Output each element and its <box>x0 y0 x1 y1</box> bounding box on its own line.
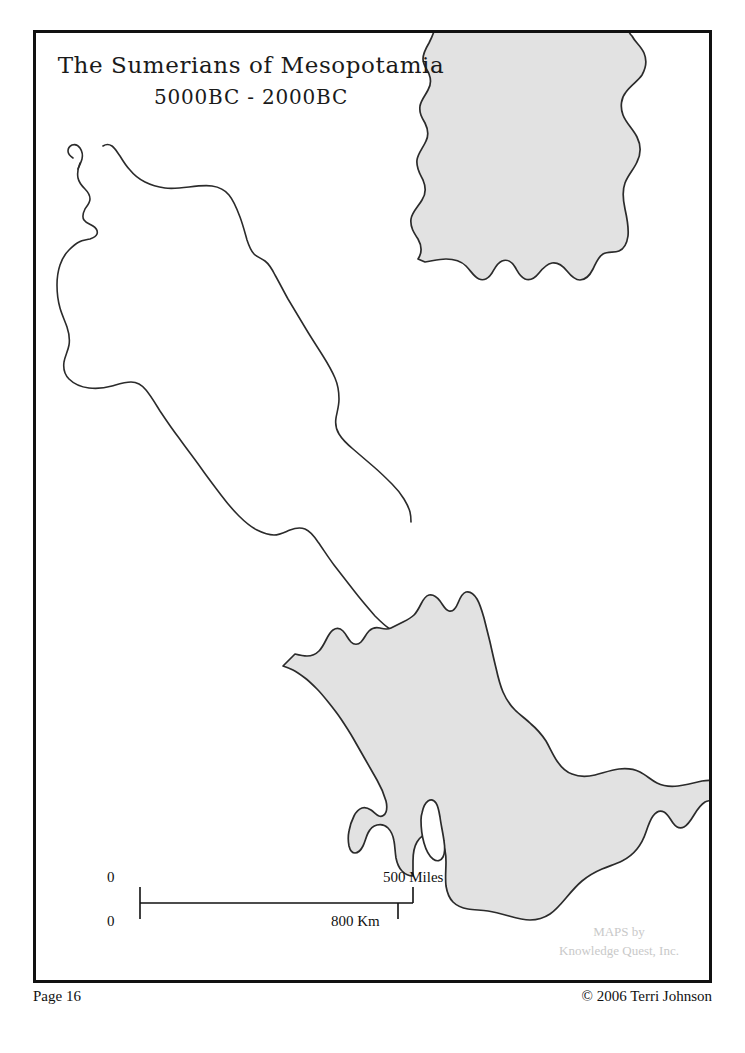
copyright-notice: © 2006 Terri Johnson <box>582 988 712 1005</box>
scale-label-miles: 500 Miles <box>383 869 443 886</box>
page-footer: Page 16 © 2006 Terri Johnson <box>33 988 712 1005</box>
map-page: The Sumerians of Mesopotamia 5000BC - 20… <box>0 0 745 1053</box>
scale-bar: 0 0 500 Miles 800 Km <box>107 861 427 941</box>
page-number: Page 16 <box>33 988 81 1005</box>
scale-label-km: 800 Km <box>331 913 380 930</box>
landmass-northeast-body <box>411 31 646 280</box>
map-canvas <box>33 30 712 983</box>
scale-label-zero-bottom: 0 <box>107 913 115 930</box>
scale-label-zero-top: 0 <box>107 869 115 886</box>
map-frame: The Sumerians of Mesopotamia 5000BC - 20… <box>33 30 712 983</box>
